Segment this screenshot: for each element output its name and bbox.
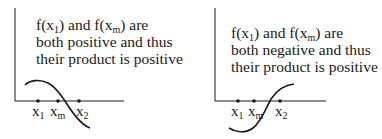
caption-line-1: f(x1) and f(xm) are	[231, 24, 378, 41]
label-x1: x1	[32, 104, 45, 119]
caption-line-3: their product is positive	[231, 58, 378, 75]
caption: f(x1) and f(xm) are both negative and th…	[231, 24, 378, 75]
caption-line-1: f(x1) and f(xm) are	[36, 16, 183, 33]
caption: f(x1) and f(xm) are both positive and th…	[36, 16, 183, 67]
caption-line-2: both negative and thus	[231, 41, 378, 58]
caption-line-2: both positive and thus	[36, 33, 183, 50]
caption-line-3: their product is positive	[36, 50, 183, 67]
label-x2: x2	[275, 104, 288, 119]
label-x1: x1	[231, 104, 244, 119]
panel-both-positive: f(x1) and f(xm) are both positive and th…	[0, 0, 191, 139]
label-x2: x2	[76, 104, 89, 119]
label-xm: xm	[248, 104, 263, 119]
label-xm: xm	[50, 104, 65, 119]
panel-both-negative: f(x1) and f(xm) are both negative and th…	[191, 0, 382, 139]
